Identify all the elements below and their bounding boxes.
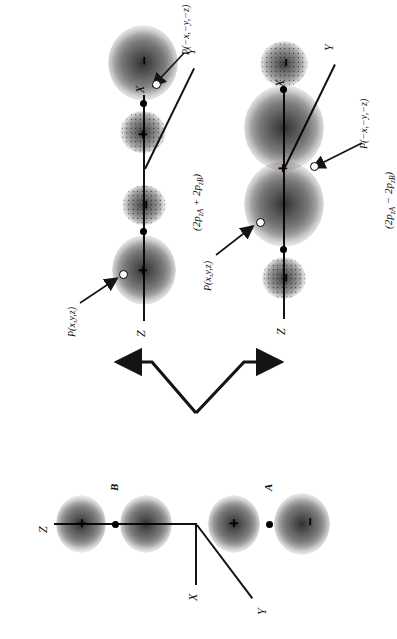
- antibonding-label-p-negative: P(−x,−y,−z): [358, 99, 369, 149]
- antibonding-formula-prefix: (2p: [382, 214, 394, 229]
- bonding-point-p-negative: [152, 80, 161, 89]
- bonding-label-p-positive: P(x,y,z): [66, 307, 77, 337]
- antibonding-formula-op: − 2p: [382, 183, 394, 207]
- antibonding-formula: (2pzA − 2pzB): [382, 172, 397, 229]
- antibonding-leader-lines: [198, 39, 388, 339]
- antibonding-formula-suffix: ): [382, 172, 394, 176]
- arrow-to-antibonding: [196, 362, 278, 413]
- antibonding-leader-positive: [216, 227, 252, 255]
- antibonding-leader-negative: [314, 143, 362, 167]
- bonding-leader-lines: [4, 39, 194, 339]
- panel-bonding-mo: Y X Z + − + − P(x,y,z) P(−x,−y,−z) (2pzA…: [4, 39, 192, 339]
- bonding-leader-positive: [80, 279, 116, 303]
- arrow-to-bonding: [120, 362, 196, 413]
- antibonding-formula-sub-a: zA: [388, 207, 397, 215]
- antibonding-point-p-negative: [310, 162, 319, 171]
- antibonding-formula-sub-b: zB: [388, 175, 397, 183]
- panel-antibonding-mo: Y X Z − + − P(x,y,z) P(−x,−y,−z) (2pzA −…: [198, 39, 388, 339]
- antibonding-label-p-positive: P(x,y,z): [202, 261, 213, 291]
- bonding-label-p-negative: P(−x,−y,−z): [180, 5, 191, 55]
